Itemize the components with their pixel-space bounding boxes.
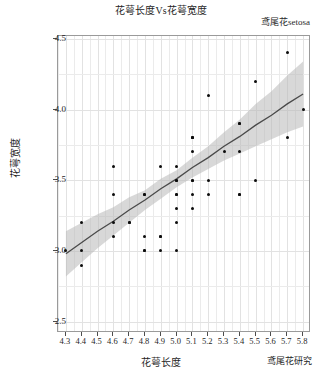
scatter-point xyxy=(143,193,146,196)
scatter-point xyxy=(112,235,115,238)
chart-figure: 花萼长度Vs花萼宽度 鸢尾花setosa 花萼宽度 花萼长度 鸢尾花研究 2.5… xyxy=(0,0,322,376)
scatter-point xyxy=(143,249,146,252)
y-axis-tick-label: 4.5 xyxy=(30,33,66,43)
chart-subtitle: 鸢尾花setosa xyxy=(261,15,310,28)
scatter-point xyxy=(175,207,178,210)
scatter-point xyxy=(175,221,178,224)
scatter-point xyxy=(207,193,210,196)
scatter-point xyxy=(238,122,241,125)
scatter-point xyxy=(143,235,146,238)
scatter-point xyxy=(128,221,131,224)
scatter-point xyxy=(191,136,194,139)
y-axis-tick-label: 3.5 xyxy=(30,174,66,184)
y-axis-tick-label: 2.5 xyxy=(30,316,66,326)
scatter-point xyxy=(238,150,241,153)
scatter-point xyxy=(112,165,115,168)
y-axis-label: 花萼宽度 xyxy=(7,108,22,208)
scatter-point xyxy=(223,150,226,153)
chart-caption: 鸢尾花研究 xyxy=(267,354,312,367)
scatter-point xyxy=(254,80,257,83)
scatter-points-layer xyxy=(58,36,309,331)
scatter-point xyxy=(286,136,289,139)
scatter-point xyxy=(207,179,210,182)
scatter-point xyxy=(112,221,115,224)
scatter-point xyxy=(175,193,178,196)
scatter-point xyxy=(159,249,162,252)
scatter-point xyxy=(286,51,289,54)
x-axis-tick-label: 5.8 xyxy=(287,336,317,346)
scatter-point xyxy=(302,108,305,111)
scatter-point xyxy=(191,150,194,153)
scatter-point xyxy=(80,264,83,267)
plot-panel xyxy=(57,35,310,332)
scatter-point xyxy=(175,249,178,252)
scatter-point xyxy=(254,179,257,182)
y-axis-tick-label: 4.0 xyxy=(30,104,66,114)
scatter-point xyxy=(238,193,241,196)
scatter-point xyxy=(159,165,162,168)
scatter-point xyxy=(191,207,194,210)
scatter-point xyxy=(175,165,178,168)
scatter-point xyxy=(175,179,178,182)
scatter-point xyxy=(191,193,194,196)
scatter-point xyxy=(80,221,83,224)
y-axis-tick-label: 3.0 xyxy=(30,245,66,255)
scatter-point xyxy=(112,193,115,196)
scatter-point xyxy=(207,94,210,97)
scatter-point xyxy=(159,235,162,238)
scatter-point xyxy=(80,249,83,252)
scatter-point xyxy=(191,179,194,182)
